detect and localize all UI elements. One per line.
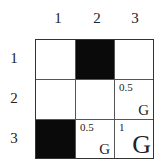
row-label-2: 2: [6, 90, 22, 107]
column-label-3: 3: [115, 10, 155, 27]
cell-2-2: [76, 80, 115, 120]
cell-1-2-blocked: [76, 40, 115, 80]
cell-1-1: [36, 40, 76, 80]
row-label-3: 3: [6, 130, 22, 147]
cell-2-3: 0.5 G: [115, 80, 153, 120]
row-label-1: 1: [6, 50, 22, 67]
column-label-1: 1: [38, 10, 78, 27]
cell-2-1: [36, 80, 76, 120]
goal-marker: G: [99, 142, 110, 157]
cell-value: 0.5: [119, 81, 133, 93]
cell-value: 1: [119, 121, 125, 133]
goal-marker-large: G: [132, 132, 151, 158]
cell-1-3: [115, 40, 153, 80]
goal-marker: G: [138, 103, 149, 118]
gridworld: 0.5 G 0.5 G 1 G: [35, 39, 154, 159]
column-label-2: 2: [77, 10, 117, 27]
cell-3-1-blocked: [36, 120, 76, 158]
cell-3-2: 0.5 G: [76, 120, 115, 158]
cell-value: 0.5: [80, 121, 94, 133]
cell-3-3: 1 G: [115, 120, 153, 158]
